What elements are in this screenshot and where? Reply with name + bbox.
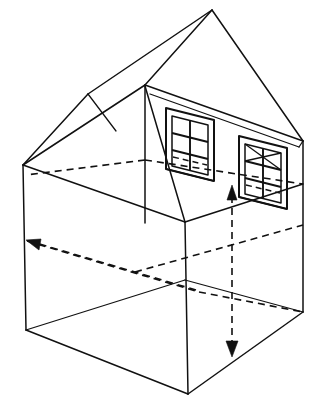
width-arrow-head	[26, 239, 41, 250]
roof-eave-fascia-left	[23, 85, 145, 165]
width-arrow-line	[36, 243, 196, 290]
window-right[interactable]	[239, 136, 287, 209]
wall-group	[23, 85, 303, 394]
wall-bottom-left-face-edge	[26, 330, 188, 394]
isometric-house-diagram: Isometric cutaway drawing of a house Lin…	[0, 0, 319, 411]
roof-rear-slope-edge	[88, 10, 212, 94]
width-arrow	[26, 239, 196, 290]
wall-front-center-vertical-edge	[185, 222, 188, 394]
wall-left-vertical-edge	[23, 165, 26, 330]
hidden-edge-base-right	[199, 292, 303, 312]
figure-root: Isometric cutaway drawing of a house Lin…	[0, 0, 319, 411]
roof-soffit-front-edge	[145, 85, 303, 141]
wall-right-inner-crease	[185, 280, 303, 312]
wall-cut-left-diagonal	[23, 165, 185, 222]
height-arrow	[226, 185, 238, 357]
wall-back-base-right	[185, 184, 303, 222]
roof-gable-front-edge	[145, 10, 212, 85]
wall-left-inner-crease	[26, 280, 185, 330]
hidden-edge-back-upper	[26, 160, 145, 175]
roof-hip-crease	[88, 94, 116, 131]
wall-bottom-right-face-edge	[188, 312, 303, 394]
hidden-edge-floor-diagonal	[135, 225, 303, 272]
height-arrow-head-top	[227, 185, 237, 200]
height-arrow-head-bottom	[226, 341, 238, 357]
hidden-edge-back-top-left	[145, 160, 303, 184]
